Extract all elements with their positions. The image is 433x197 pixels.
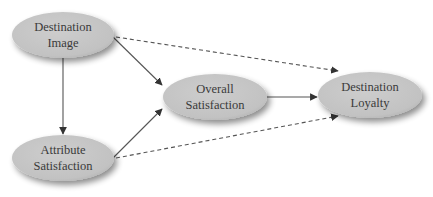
path-diagram: DestinationImageAttributeSatisfactionOve… bbox=[0, 0, 433, 197]
node-label: Satisfaction bbox=[33, 159, 93, 173]
node-overall-satisfaction: OverallSatisfaction bbox=[163, 74, 267, 120]
node-label: Loyalty bbox=[351, 96, 391, 110]
node-label: Attribute bbox=[40, 143, 86, 157]
nodes-layer: DestinationImageAttributeSatisfactionOve… bbox=[12, 12, 422, 181]
node-ellipse bbox=[12, 135, 114, 181]
node-ellipse bbox=[12, 12, 114, 58]
node-ellipse bbox=[318, 72, 422, 118]
node-label: Satisfaction bbox=[185, 98, 245, 112]
node-label: Destination bbox=[34, 20, 92, 34]
node-ellipse bbox=[163, 74, 267, 120]
node-label: Image bbox=[47, 36, 79, 50]
edge-destination-image-to-overall-satisfaction bbox=[113, 37, 162, 85]
node-label: Overall bbox=[196, 82, 234, 96]
node-destination-image: DestinationImage bbox=[12, 12, 114, 58]
edge-destination-image-to-destination-loyalty bbox=[116, 37, 338, 71]
node-attribute-satisfaction: AttributeSatisfaction bbox=[12, 135, 114, 181]
edge-attribute-satisfaction-to-overall-satisfaction bbox=[113, 109, 162, 158]
node-destination-loyalty: DestinationLoyalty bbox=[318, 72, 422, 118]
node-label: Destination bbox=[341, 80, 399, 94]
